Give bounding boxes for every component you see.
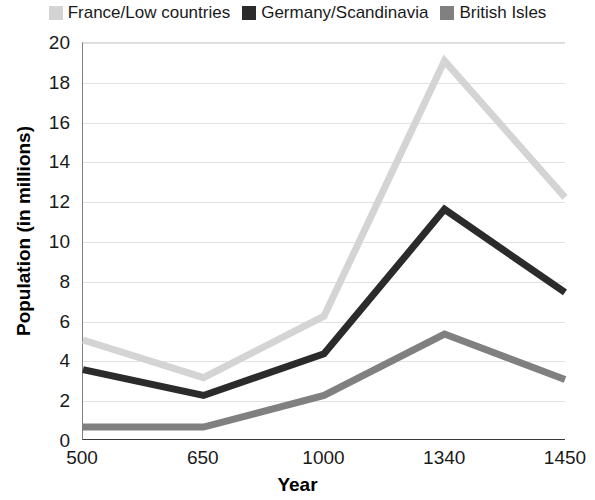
plot-area — [82, 42, 565, 440]
y-axis-tick-label: 12 — [49, 192, 70, 211]
series-line — [83, 61, 565, 378]
x-axis: 500650100013401450 — [0, 446, 595, 476]
legend-item[interactable]: British Isles — [440, 4, 546, 22]
population-line-chart: France/Low countriesGermany/ScandinaviaB… — [0, 0, 595, 500]
x-axis-tick-label: 650 — [187, 446, 219, 470]
legend-swatch-icon — [242, 6, 256, 20]
chart-legend: France/Low countriesGermany/ScandinaviaB… — [0, 4, 595, 22]
y-axis-tick-label: 2 — [59, 391, 70, 410]
x-axis-tick-label: 1000 — [302, 446, 344, 470]
x-axis-tick-label: 500 — [66, 446, 98, 470]
y-axis-tick-label: 14 — [49, 152, 70, 171]
x-axis-tick-label: 1340 — [423, 446, 465, 470]
legend-swatch-icon — [440, 6, 454, 20]
y-axis-tick-label: 8 — [59, 271, 70, 290]
series-line — [83, 209, 565, 395]
y-axis-tick-label: 4 — [59, 351, 70, 370]
y-axis-title: Population (in millions) — [13, 31, 35, 431]
y-axis-tick-label: 6 — [59, 311, 70, 330]
legend-item-label: France/Low countries — [68, 4, 231, 22]
y-axis: 02468101214161820 — [0, 0, 78, 500]
y-axis-tick-label: 20 — [49, 33, 70, 52]
series-lines — [83, 43, 565, 439]
series-line — [83, 334, 565, 427]
legend-item[interactable]: Germany/Scandinavia — [242, 4, 428, 22]
y-axis-tick-label: 18 — [49, 72, 70, 91]
x-axis-tick-label: 1450 — [544, 446, 586, 470]
legend-item-label: Germany/Scandinavia — [261, 4, 428, 22]
x-axis-title: Year — [0, 474, 595, 496]
legend-item-label: British Isles — [459, 4, 546, 22]
y-axis-tick-label: 10 — [49, 232, 70, 251]
y-axis-tick-label: 16 — [49, 112, 70, 131]
